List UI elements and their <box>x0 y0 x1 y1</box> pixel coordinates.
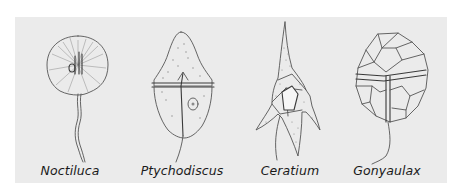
ceratium-illustration <box>250 18 325 168</box>
ceratium-label: Ceratium <box>261 163 320 178</box>
noctiluca-label: Noctiluca <box>40 163 99 178</box>
gonyaulax-illustration <box>350 30 435 165</box>
ptychodiscus-label: Ptychodiscus <box>141 163 224 178</box>
noctiluca-illustration <box>38 30 118 160</box>
gonyaulax-label: Gonyaulax <box>353 163 421 178</box>
ptychodiscus-illustration <box>148 28 218 163</box>
